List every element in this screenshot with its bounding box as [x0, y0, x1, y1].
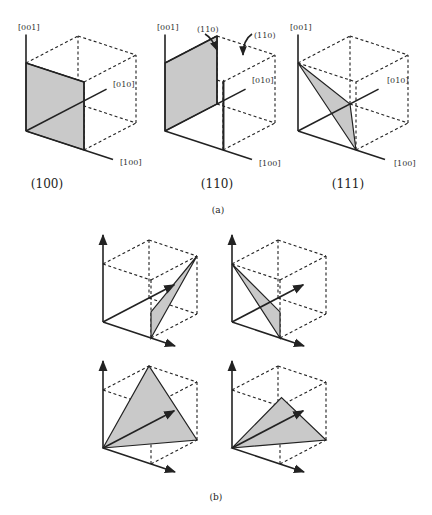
- b1-cube-edge: [103, 240, 149, 264]
- b4-cube-edge: [278, 366, 326, 382]
- a3-cube-edge: [350, 36, 408, 55]
- b2-cube-edge: [280, 256, 326, 280]
- caption-100: (100): [31, 177, 63, 191]
- caption-111: (111): [332, 177, 364, 191]
- part-a-label: (a): [212, 205, 224, 215]
- a2-axis-x: [165, 131, 252, 160]
- b2-cube-edge: [278, 298, 326, 314]
- a3-cube-edge: [356, 123, 408, 150]
- a1-cube-edge: [78, 104, 136, 123]
- axis-label-001-a1: [001]: [18, 23, 40, 32]
- axis-label-100-a3: [100]: [394, 159, 416, 168]
- b2-cube-edge: [278, 240, 326, 256]
- plane-b3: [103, 366, 197, 448]
- b4-axis-x: [232, 448, 304, 472]
- axis-label-010-a2: [010]: [252, 76, 274, 85]
- axis-label-100-a1: [100]: [120, 158, 142, 167]
- b3-axis-x: [103, 448, 175, 472]
- plane-100: [26, 63, 84, 150]
- a3-axis-x: [298, 131, 385, 160]
- axis-label-001-a2: [001]: [157, 23, 179, 32]
- plane-b1: [151, 256, 197, 338]
- b1-cube-edge: [149, 240, 197, 256]
- annotation-110-right: (110): [254, 31, 276, 40]
- a3-cube-edge: [298, 36, 350, 63]
- axis-label-010-a3: [010]: [387, 76, 409, 85]
- a1-cube-edge: [78, 36, 136, 55]
- a2-cube-edge: [223, 123, 275, 150]
- a1-cube-edge: [26, 36, 78, 63]
- axis-label-100-a2: [100]: [259, 159, 281, 168]
- a1-cube-edge: [84, 123, 136, 150]
- caption-110: (110): [201, 177, 233, 191]
- b2-cube-edge: [232, 240, 278, 264]
- part-b-label: (b): [210, 492, 223, 502]
- b2-cube-edge: [280, 314, 326, 338]
- b1-axis-x: [103, 322, 175, 346]
- annotation-110-left: (110): [197, 25, 219, 34]
- a3-cube-edge: [350, 104, 408, 123]
- plane-111: [298, 63, 356, 150]
- b4-cube-edge: [232, 366, 278, 390]
- annotation-arrow-right: [243, 34, 252, 55]
- b2-axis-x: [232, 322, 304, 346]
- a2-cube-edge: [217, 104, 275, 123]
- plane-110-diagonal: [223, 80, 224, 150]
- b1-cube-edge: [103, 264, 151, 280]
- b4-cube-edge: [232, 390, 280, 406]
- crystal-planes-figure: (100) (110) (111) (a) [001] [010] [100] …: [0, 0, 432, 515]
- axis-label-010-a1: [010]: [113, 80, 135, 89]
- a1-cube-edge: [84, 55, 136, 82]
- axis-label-001-a3: [001]: [290, 23, 312, 32]
